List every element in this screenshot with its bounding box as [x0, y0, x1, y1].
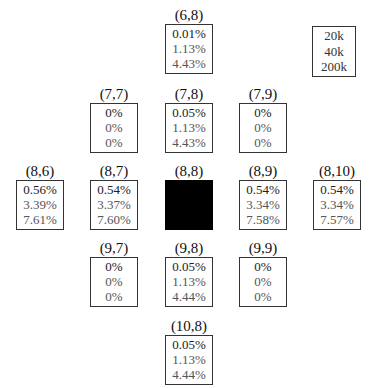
value-40k: 0% [254, 275, 271, 289]
cell-label: (9,9) [228, 241, 298, 257]
value-40k: 0% [105, 121, 122, 135]
legend-item-20k: 20k [324, 29, 344, 43]
value-20k: 0.54% [97, 183, 131, 197]
value-40k: 3.37% [97, 198, 131, 212]
legend-box: 20k 40k 200k [312, 26, 356, 77]
value-200k: 4.43% [172, 136, 206, 150]
value-200k: 4.43% [172, 57, 206, 71]
value-20k: 0.54% [320, 183, 354, 197]
value-40k: 0% [105, 275, 122, 289]
cell-values-box: 0.54% 3.34% 7.57% [313, 180, 361, 230]
cell-label: (10,8) [154, 319, 224, 335]
value-200k: 7.61% [23, 213, 57, 227]
cell-label: (8,10) [302, 164, 372, 180]
value-200k: 7.60% [97, 213, 131, 227]
cell-values-box: 0.56% 3.39% 7.61% [16, 180, 64, 230]
center-filled-box [165, 180, 213, 230]
cell-values-box: 0.05% 1.13% 4.44% [165, 257, 213, 307]
cell-8-8-center: (8,8) [164, 164, 214, 230]
cell-values-box: 0.01% 1.13% 4.43% [165, 24, 213, 74]
value-200k: 0% [105, 290, 122, 304]
cell-7-8: (7,8) 0.05% 1.13% 4.43% [164, 87, 214, 153]
cell-values-box: 0% 0% 0% [90, 257, 138, 307]
cell-9-8: (9,8) 0.05% 1.13% 4.44% [164, 241, 214, 307]
value-20k: 0.56% [23, 183, 57, 197]
cell-values-box: 0.05% 1.13% 4.43% [165, 103, 213, 153]
cell-values-box: 0.05% 1.13% 4.44% [165, 335, 213, 385]
value-40k: 1.13% [172, 275, 206, 289]
cell-8-6: (8,6) 0.56% 3.39% 7.61% [15, 164, 65, 230]
value-40k: 1.13% [172, 353, 206, 367]
cell-8-7: (8,7) 0.54% 3.37% 7.60% [89, 164, 139, 230]
cell-label: (6,8) [154, 8, 224, 24]
cell-9-7: (9,7) 0% 0% 0% [89, 241, 139, 307]
cell-label: (9,7) [79, 241, 149, 257]
cell-8-10: (8,10) 0.54% 3.34% 7.57% [312, 164, 362, 230]
cell-values-box: 0% 0% 0% [90, 103, 138, 153]
cell-label: (7,8) [154, 87, 224, 103]
cell-7-7: (7,7) 0% 0% 0% [89, 87, 139, 153]
cell-label: (8,7) [79, 164, 149, 180]
cell-values-box: 0% 0% 0% [239, 103, 287, 153]
value-40k: 1.13% [172, 42, 206, 56]
value-20k: 0.01% [172, 27, 206, 41]
value-200k: 0% [254, 290, 271, 304]
value-20k: 0% [254, 260, 271, 274]
value-20k: 0.54% [246, 183, 280, 197]
value-20k: 0% [254, 106, 271, 120]
value-20k: 0% [105, 106, 122, 120]
cell-label: (7,7) [79, 87, 149, 103]
value-200k: 4.44% [172, 368, 206, 382]
value-20k: 0% [105, 260, 122, 274]
cell-label: (8,8) [154, 164, 224, 180]
value-20k: 0.05% [172, 260, 206, 274]
cell-10-8: (10,8) 0.05% 1.13% 4.44% [164, 319, 214, 385]
cell-values-box: 0.54% 3.37% 7.60% [90, 180, 138, 230]
cell-label: (9,8) [154, 241, 224, 257]
value-200k: 7.58% [246, 213, 280, 227]
legend-item-40k: 40k [324, 45, 344, 59]
cell-8-9: (8,9) 0.54% 3.34% 7.58% [238, 164, 288, 230]
cell-9-9: (9,9) 0% 0% 0% [238, 241, 288, 307]
value-20k: 0.05% [172, 106, 206, 120]
value-40k: 0% [254, 121, 271, 135]
cell-label: (7,9) [228, 87, 298, 103]
cell-values-box: 0.54% 3.34% 7.58% [239, 180, 287, 230]
legend-item-200k: 200k [321, 60, 347, 74]
cell-6-8: (6,8) 0.01% 1.13% 4.43% [164, 8, 214, 74]
value-200k: 4.44% [172, 290, 206, 304]
value-200k: 0% [254, 136, 271, 150]
cell-7-9: (7,9) 0% 0% 0% [238, 87, 288, 153]
cell-label: (8,6) [5, 164, 75, 180]
value-200k: 7.57% [320, 213, 354, 227]
cell-values-box: 0% 0% 0% [239, 257, 287, 307]
value-40k: 3.34% [320, 198, 354, 212]
value-20k: 0.05% [172, 338, 206, 352]
value-200k: 0% [105, 136, 122, 150]
cell-label: (8,9) [228, 164, 298, 180]
value-40k: 3.39% [23, 198, 57, 212]
value-40k: 3.34% [246, 198, 280, 212]
value-40k: 1.13% [172, 121, 206, 135]
